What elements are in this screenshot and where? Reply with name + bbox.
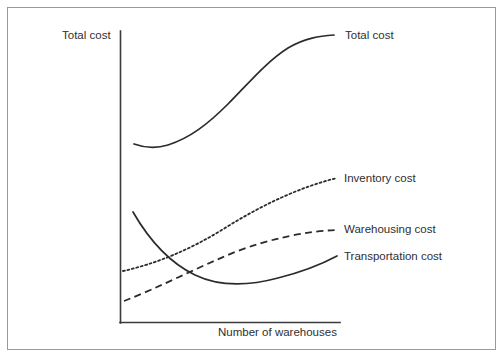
series-label-warehousing-cost: Warehousing cost [344, 224, 436, 236]
curve-warehousing-cost [124, 230, 337, 301]
plot-area [0, 0, 503, 362]
curve-transportation-cost [133, 212, 337, 284]
series-label-transportation-cost: Transportation cost [344, 251, 442, 263]
y-axis-label: Total cost [62, 30, 111, 42]
series-label-inventory-cost: Inventory cost [344, 173, 416, 185]
chart-figure: Total cost Number of warehouses Total co… [0, 0, 503, 362]
curve-total-cost [134, 35, 334, 148]
x-axis-label: Number of warehouses [218, 327, 337, 339]
series-label-total-cost: Total cost [345, 30, 394, 42]
curve-inventory-cost [123, 178, 337, 271]
